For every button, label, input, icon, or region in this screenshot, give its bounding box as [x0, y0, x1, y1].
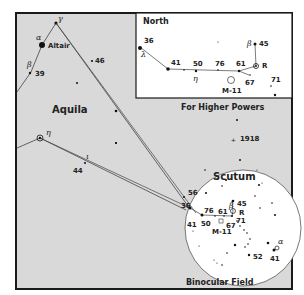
- inset-star-71: 71: [271, 76, 281, 84]
- bino-star-56: 56: [188, 189, 198, 197]
- inset-eta-label: η: [193, 74, 198, 83]
- scutum-label: Scutum: [213, 171, 256, 182]
- star-chart: γ α Altair β 39 46 Aquila η ι 44 1918 + …: [0, 0, 304, 295]
- inset-star-41: 41: [171, 59, 181, 67]
- bino-star-61: 61: [218, 208, 228, 216]
- bino-m11-label: M-11: [212, 228, 232, 236]
- inset-r-label: R: [262, 62, 268, 70]
- inset-m11-label: M-11: [222, 87, 242, 95]
- inset-star-61: 61: [236, 60, 246, 68]
- alpha-label: α: [36, 33, 42, 42]
- aquila-label: Aquila: [52, 104, 88, 115]
- nova-marker-icon: +: [231, 136, 236, 145]
- bino-beta-label: β: [228, 201, 234, 210]
- inset-star-36: 36: [144, 37, 154, 45]
- inset-star-67: 67: [245, 79, 255, 87]
- eta-label: η: [46, 128, 51, 137]
- star-46-label: 46: [95, 57, 105, 65]
- nova-1918-label: 1918: [240, 135, 260, 143]
- bino-alpha-label: α: [278, 237, 284, 246]
- bino-star-45: 45: [237, 200, 247, 208]
- star-39-label: 39: [35, 70, 45, 78]
- bino-r-label: R: [239, 209, 245, 217]
- inset-star-76: 76: [215, 60, 225, 68]
- bino-star-41b: 41: [270, 255, 280, 263]
- inset-star-50: 50: [193, 60, 203, 68]
- gamma-label: γ: [58, 14, 63, 23]
- bino-star-71: 71: [236, 217, 246, 225]
- inset-beta-label: β: [246, 39, 252, 48]
- altair-label: Altair: [48, 42, 70, 50]
- bino-star-41: 41: [187, 221, 197, 229]
- binocular-caption: Binocular Field: [186, 278, 254, 287]
- star-44-label: 44: [73, 167, 83, 175]
- lambda-label: λ: [140, 50, 146, 59]
- inset-star-45: 45: [259, 40, 269, 48]
- bino-star-52: 52: [253, 253, 263, 261]
- bino-star-50: 50: [201, 220, 211, 228]
- higher-powers-inset: North For Higher Powers 36 λ 41 5: [136, 13, 292, 112]
- inset-caption: For Higher Powers: [181, 103, 265, 112]
- beta-label: β: [26, 60, 32, 69]
- bino-star-36: 36: [181, 202, 191, 210]
- north-label: North: [143, 17, 169, 26]
- bino-star-76: 76: [204, 207, 214, 215]
